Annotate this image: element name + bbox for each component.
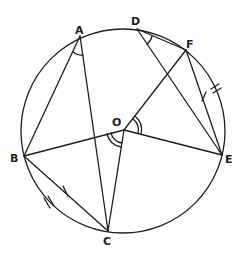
segment-OF [124, 50, 186, 130]
segment-FE [186, 50, 222, 155]
segment-BC [24, 156, 108, 231]
angle-mark-A [73, 52, 83, 55]
segment-AB [24, 36, 80, 156]
geometry-diagram: A D F O B E C [0, 0, 244, 257]
angle-mark-O-FE-inner [133, 119, 138, 133]
label-F: F [186, 38, 194, 51]
label-O: O [112, 116, 121, 129]
segment-OB [24, 130, 124, 156]
angle-mark-O-BC-outer [107, 134, 121, 147]
label-C: C [103, 235, 111, 248]
label-D: D [131, 15, 140, 28]
angle-mark-O-BC-inner [111, 133, 122, 143]
angle-mark-D [147, 36, 152, 44]
segment-AC [80, 36, 108, 231]
label-A: A [75, 24, 84, 37]
label-E: E [225, 153, 233, 166]
label-B: B [10, 152, 18, 165]
